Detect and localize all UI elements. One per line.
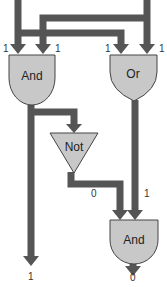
wire-and-to-not <box>31 112 74 124</box>
logic-circuit-diagram: And Or Not And 1 1 1 1 0 1 1 0 <box>0 0 167 287</box>
and-bottom-input-b-value: 1 <box>144 188 150 199</box>
and-gate-top-label: And <box>21 69 42 83</box>
arrow-icon <box>35 44 51 54</box>
and-gate-top: And <box>9 55 55 105</box>
arrow-icon <box>23 256 39 266</box>
arrow-icon <box>139 44 155 54</box>
or-top-input-b-value: 1 <box>159 43 165 54</box>
or-gate-top: Or <box>110 55 157 101</box>
not-gate: Not <box>50 133 98 173</box>
and-bottom-input-a-value: 0 <box>91 188 97 199</box>
and-gate-bottom-label: And <box>123 233 144 247</box>
arrow-icon <box>113 44 129 54</box>
not-gate-label: Not <box>65 140 84 154</box>
output-right-value: 0 <box>130 272 136 283</box>
output-left-value: 1 <box>28 271 34 282</box>
or-gate-top-label: Or <box>126 67 139 81</box>
arrow-icon <box>127 210 143 220</box>
and-gate-bottom: And <box>110 220 158 264</box>
arrow-icon <box>112 210 128 220</box>
or-top-input-a-value: 1 <box>105 43 111 54</box>
and-top-input-a-value: 1 <box>3 43 9 54</box>
arrow-icon <box>10 44 26 54</box>
and-top-input-b-value: 1 <box>55 43 61 54</box>
arrow-icon <box>66 124 82 133</box>
